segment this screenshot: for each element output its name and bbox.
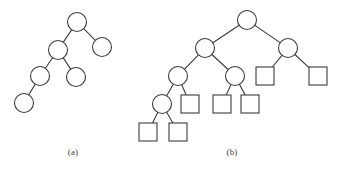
internal-node-circle [15,94,34,113]
internal-node-circle [49,41,68,60]
internal-node-circle [196,39,215,58]
external-node-square [309,67,327,85]
internal-node-circle [279,39,298,58]
external-node-square [181,95,199,113]
internal-node-circle [68,13,87,32]
internal-node-circle [93,38,112,57]
external-node-square [256,67,274,85]
external-node-square [169,123,187,141]
external-node-square [241,95,259,113]
internal-node-circle [67,68,86,87]
internal-node-circle [169,67,188,86]
internal-node-circle [153,95,172,114]
panel-b-caption: (b) [226,147,237,157]
tree-diagram-figure [0,0,346,172]
internal-node-circle [31,67,50,86]
external-node-square [213,95,231,113]
figure-background [0,0,346,172]
panel-a-caption: (a) [68,147,79,157]
external-node-square [139,123,157,141]
internal-node-circle [238,11,257,30]
internal-node-circle [226,67,245,86]
